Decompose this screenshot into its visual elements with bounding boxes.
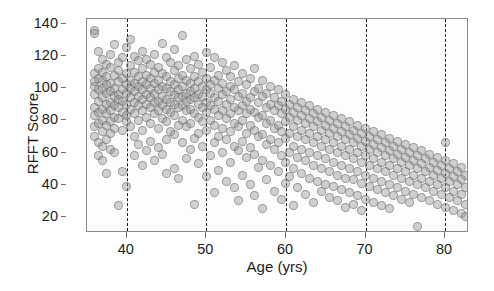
data-point: [178, 138, 187, 147]
y-tick-mark: [61, 55, 66, 56]
data-point: [258, 76, 267, 85]
data-point: [174, 174, 183, 183]
data-point: [170, 45, 179, 54]
data-point: [202, 172, 211, 181]
data-point: [385, 204, 394, 213]
data-point: [186, 119, 195, 128]
y-tick-mark: [61, 184, 66, 185]
data-point: [114, 201, 123, 210]
data-point: [413, 222, 422, 231]
x-axis-title: Age (yrs): [86, 258, 468, 275]
data-point: [246, 74, 255, 83]
data-point: [230, 61, 239, 70]
x-tick-mark: [285, 232, 286, 238]
y-tick-label: 20: [42, 208, 58, 224]
data-point: [126, 122, 135, 131]
data-point: [266, 161, 275, 170]
data-point: [461, 200, 468, 209]
y-tick-mark: [61, 216, 66, 217]
data-points-layer: [87, 19, 467, 231]
data-point: [178, 31, 187, 40]
data-point: [122, 182, 131, 191]
data-point: [110, 40, 119, 49]
plot-area: [86, 18, 468, 232]
data-point: [226, 158, 235, 167]
data-point: [130, 151, 139, 160]
data-point: [301, 190, 310, 199]
data-point: [461, 212, 468, 221]
data-point: [289, 201, 298, 210]
data-point: [246, 180, 255, 189]
y-tick-label: 120: [34, 47, 58, 63]
y-tick-label: 80: [42, 111, 58, 127]
x-tick-label: 60: [277, 241, 293, 257]
data-point: [118, 167, 127, 176]
data-point: [222, 135, 231, 144]
data-point: [238, 137, 247, 146]
scatter-plot-figure: 20406080100120140 4050607080 RFFT Score …: [0, 0, 494, 291]
data-point: [170, 130, 179, 139]
data-point: [158, 150, 167, 159]
data-point: [226, 127, 235, 136]
data-point: [230, 183, 239, 192]
data-point: [461, 171, 468, 180]
y-tick-mark: [61, 23, 66, 24]
data-point: [441, 138, 450, 147]
data-point: [142, 146, 151, 155]
y-tick-mark: [61, 87, 66, 88]
data-point: [198, 142, 207, 151]
x-tick-mark: [126, 232, 127, 238]
data-point: [110, 148, 119, 157]
data-point: [90, 29, 99, 38]
data-point: [258, 204, 267, 213]
data-point: [150, 156, 159, 165]
data-point: [150, 50, 159, 59]
data-point: [174, 61, 183, 70]
data-point: [357, 206, 366, 215]
data-point: [285, 172, 294, 181]
data-point: [194, 159, 203, 168]
data-point: [210, 188, 219, 197]
x-tick-label: 80: [436, 241, 452, 257]
x-tick-label: 50: [197, 241, 213, 257]
y-tick-label: 40: [42, 176, 58, 192]
data-point: [158, 39, 167, 48]
data-point: [138, 161, 147, 170]
y-axis-title: RFFT Score: [24, 74, 41, 194]
data-point: [138, 126, 147, 135]
data-point: [250, 191, 259, 200]
data-point: [122, 43, 131, 52]
data-point: [250, 64, 259, 73]
x-tick-label: 70: [356, 241, 372, 257]
data-point: [154, 124, 163, 133]
data-point: [170, 164, 179, 173]
data-point: [214, 166, 223, 175]
data-point: [190, 200, 199, 209]
x-tick-mark: [365, 232, 366, 238]
x-tick-mark: [444, 232, 445, 238]
data-point: [182, 154, 191, 163]
data-point: [162, 117, 171, 126]
x-tick-label: 40: [118, 241, 134, 257]
data-point: [405, 198, 414, 207]
data-point: [126, 35, 135, 44]
data-point: [270, 187, 279, 196]
data-point: [98, 156, 107, 165]
data-point: [118, 53, 127, 62]
data-point: [206, 63, 215, 72]
data-point: [309, 198, 318, 207]
data-point: [238, 171, 247, 180]
y-tick-label: 140: [34, 15, 58, 31]
data-point: [274, 167, 283, 176]
data-point: [262, 175, 271, 184]
data-point: [206, 151, 215, 160]
y-tick-label: 60: [42, 144, 58, 160]
data-point: [218, 148, 227, 157]
data-point: [106, 50, 115, 59]
data-point: [250, 150, 259, 159]
data-point: [186, 145, 195, 154]
data-point: [234, 146, 243, 155]
x-tick-mark: [205, 232, 206, 238]
data-point: [277, 195, 286, 204]
y-tick-mark: [61, 152, 66, 153]
